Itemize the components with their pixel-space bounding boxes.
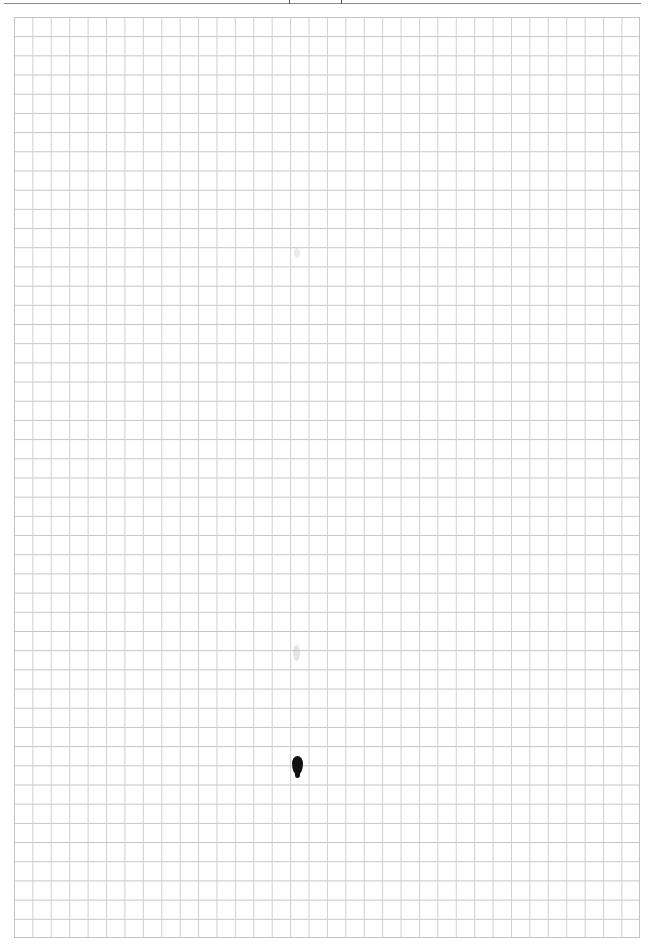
graph-paper-grid: [14, 17, 640, 938]
faint-smudge-upper: [294, 248, 300, 258]
header-rule: [4, 3, 641, 4]
header-text-fragment: [289, 0, 290, 4]
header-text-fragment: [341, 0, 342, 4]
faint-smudge-lower: [293, 645, 300, 661]
